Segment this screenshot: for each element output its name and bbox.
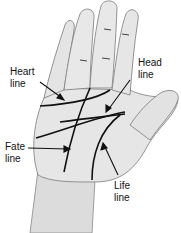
life-label-text-1: Life [114,180,130,192]
heart-line-label: Heart line [10,66,34,90]
palm-illustration [0,0,181,233]
fate-label-text-1: Fate [5,141,25,153]
head-label-text-2: line [138,69,162,81]
head-label-text-1: Head [138,57,162,69]
heart-label-text-1: Heart [10,66,34,78]
fate-label-text-2: line [5,153,25,165]
heart-label-text-2: line [10,78,34,90]
head-line-label: Head line [138,57,162,81]
fate-line-label: Fate line [5,141,25,165]
life-line-label: Life line [114,180,130,204]
life-label-text-2: line [114,192,130,204]
